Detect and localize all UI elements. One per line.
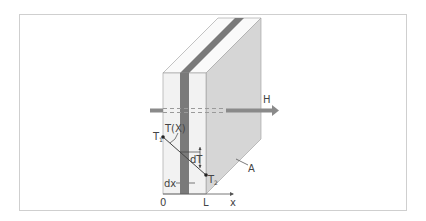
heat-arrow-head <box>272 105 279 116</box>
label-dx: dx <box>164 178 176 189</box>
label-dt: dT <box>190 154 203 165</box>
label-origin: 0 <box>160 197 166 208</box>
heat-arrow-shaft <box>226 109 272 113</box>
heat-arrow-tail <box>150 109 163 113</box>
slab-diagram: H dT T(X) T1 T2 dx A 0 L x <box>0 0 426 221</box>
label-heat-flow: H <box>263 94 271 105</box>
label-area: A <box>248 163 255 174</box>
label-temperature-profile: T(X) <box>164 123 186 134</box>
label-t1: T1 <box>152 131 163 143</box>
label-thickness: L <box>203 197 209 208</box>
label-x-axis: x <box>230 197 236 208</box>
x-axis-arrow <box>230 192 234 196</box>
